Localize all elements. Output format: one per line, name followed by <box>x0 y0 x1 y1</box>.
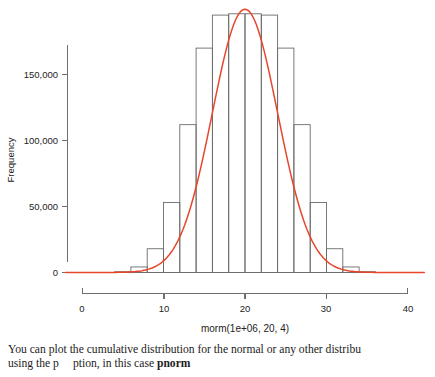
histogram-figure: 0 50,000 100,000 150,000 Frequency <box>0 0 435 340</box>
y-axis-tick-labels: 0 50,000 100,000 150,000 <box>24 69 58 278</box>
histogram-bar <box>261 15 277 272</box>
histogram-plot-svg: 0 50,000 100,000 150,000 Frequency <box>0 0 435 340</box>
x-tick-label-20: 20 <box>240 303 251 314</box>
caption-line-2-part-1: using the p <box>8 357 59 370</box>
x-tick-label-30: 30 <box>321 303 332 314</box>
x-tick-label-10: 10 <box>159 303 170 314</box>
histogram-bars <box>115 14 376 273</box>
y-tick-label-0: 0 <box>53 267 58 278</box>
caption-line-2-part-2: ption, in this case <box>73 357 154 370</box>
x-axis-title: morm(1e+06, 20, 4) <box>201 323 289 334</box>
figure-caption: You can plot the cumulative distribution… <box>8 343 435 370</box>
y-tick-label-50000: 50,000 <box>29 201 58 212</box>
y-tick-label-150000: 150,000 <box>24 69 58 80</box>
y-tick-label-100000: 100,000 <box>24 135 58 146</box>
x-tick-label-0: 0 <box>79 303 84 314</box>
histogram-bar <box>310 203 326 273</box>
x-axis-tick-labels: 0 10 20 30 40 <box>79 303 413 314</box>
histogram-bar <box>196 48 212 272</box>
caption-code-pnorm: pnorm <box>157 357 191 370</box>
x-tick-label-40: 40 <box>403 303 414 314</box>
caption-line-2: using the pption, in this case pnorm <box>8 357 435 371</box>
histogram-bar <box>245 14 261 273</box>
x-axis-group: 0 10 20 30 40 <box>79 288 413 314</box>
histogram-bar <box>278 48 294 272</box>
caption-line-1: You can plot the cumulative distribution… <box>8 343 435 357</box>
histogram-bar <box>229 14 245 273</box>
histogram-bar <box>212 15 228 272</box>
y-axis-title: Frequency <box>5 137 16 182</box>
figure-page: 0 50,000 100,000 150,000 Frequency <box>0 0 435 377</box>
histogram-bar <box>164 203 180 273</box>
